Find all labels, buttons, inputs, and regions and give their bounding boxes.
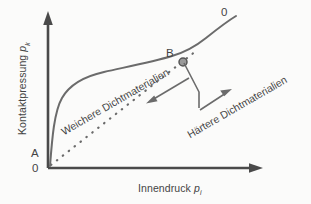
x-axis-label-text: Innendruck xyxy=(138,182,191,194)
diagram-canvas xyxy=(0,0,311,204)
point-a-label: A xyxy=(31,148,39,160)
y-axis-label: Kontaktpressung pk xyxy=(17,19,30,159)
y-axis-label-text: Kontaktpressung xyxy=(16,55,28,135)
branch-bracket xyxy=(184,63,199,108)
y-axis-symbol: p xyxy=(16,46,28,52)
x-axis-subscript: i xyxy=(200,189,202,196)
gasket-contact-pressure-diagram: Kontaktpressung pk Innendruck pi Weicher… xyxy=(0,0,311,204)
x-axis-label: Innendruck pi xyxy=(138,183,202,196)
origin-zero-label: 0 xyxy=(32,163,38,175)
curve-end-zero-label: 0 xyxy=(221,7,227,19)
x-axis xyxy=(48,163,263,173)
point-b-label: B xyxy=(166,48,174,60)
y-axis-subscript: k xyxy=(24,42,31,46)
